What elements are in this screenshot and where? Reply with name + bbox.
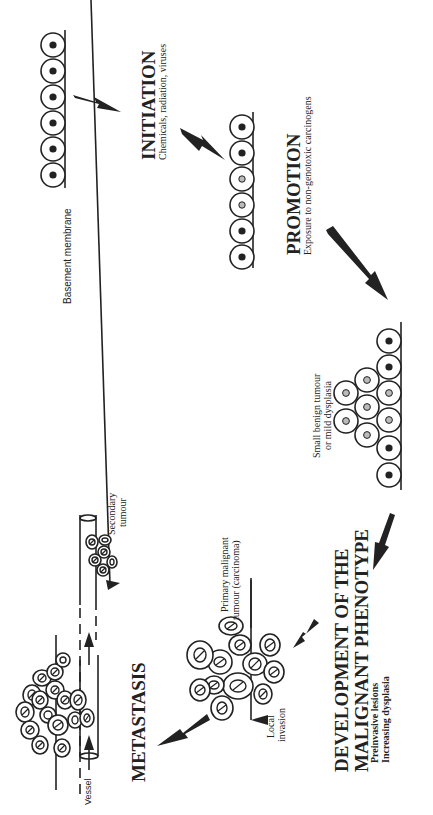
initiation-subtitle: Chemicals, radiation, viruses	[157, 44, 168, 160]
flow-arrow-lower-head	[84, 735, 94, 750]
arrow-to-initiated-cells	[180, 128, 225, 160]
extravasation-arrow-head	[106, 580, 120, 590]
arrow-to-primary	[293, 619, 319, 648]
local-invasion-line2: invasion	[276, 708, 287, 742]
flow-arrow-mid-head	[84, 632, 94, 647]
secondary-label-line1: Secondary	[106, 493, 117, 535]
initiation-title: INITIATION	[138, 50, 159, 160]
promotion-subtitle: Exposure to non-genotoxic carcinogens	[302, 96, 313, 255]
secondary-tumour-cells	[86, 535, 117, 576]
benign-tumour: Small benign tumour or mild dysplasia	[311, 322, 401, 490]
invading-tumour-cells	[16, 653, 94, 757]
initiated-epithelium	[230, 112, 254, 269]
diagram-svg: Basement membrane INITIATION Chemicals, …	[0, 0, 433, 815]
basement-membrane-label: Basement membrane	[62, 208, 73, 304]
malignant-title-line1: DEVELOPMENT OF THE	[331, 549, 352, 772]
primary-tumour: Primary malignant tumour (carcinoma) Loc…	[187, 537, 287, 742]
primary-label-line2: tumour (carcinoma)	[230, 540, 242, 620]
vessel-label: Vessel	[83, 778, 93, 805]
normal-cells	[41, 33, 65, 187]
carcinogenesis-diagram: Basement membrane INITIATION Chemicals, …	[0, 0, 433, 815]
metastasis-title: METASTASIS	[128, 662, 149, 782]
arrow-to-malignant	[373, 513, 395, 570]
primary-label-line1: Primary malignant	[219, 537, 230, 612]
metastasis-scene: Vessel	[16, 0, 128, 805]
arrow-to-benign	[326, 226, 388, 300]
local-invasion-line1: Local	[265, 715, 276, 738]
benign-label-line2: or mild dysplasia	[322, 381, 333, 450]
vessel-end-top	[80, 515, 96, 521]
secondary-label-line2: tumour	[117, 497, 128, 527]
normal-epithelium: Basement membrane	[41, 30, 73, 304]
arrow-to-initiation	[73, 95, 121, 112]
arrow-to-metastasis	[157, 714, 210, 746]
malignant-subtitle-line2: Increasing dysplasia	[380, 676, 391, 763]
malignant-subtitle-line1: Preinvasive lesions	[369, 683, 380, 763]
benign-label-line1: Small benign tumour	[311, 373, 322, 458]
primary-tumour-cells	[187, 617, 284, 720]
promotion-title: PROMOTION	[283, 133, 304, 255]
